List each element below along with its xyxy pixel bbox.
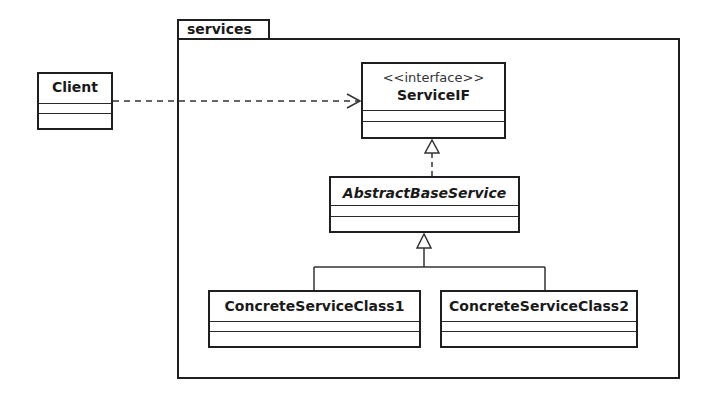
class-name: Client bbox=[39, 79, 111, 95]
class-concrete-service-2[interactable]: ConcreteServiceClass2 bbox=[440, 290, 638, 348]
attributes-divider bbox=[210, 321, 419, 322]
operations-divider bbox=[363, 121, 504, 122]
class-client[interactable]: Client bbox=[37, 72, 113, 130]
hollow-triangle-icon bbox=[417, 234, 431, 248]
class-name: AbstractBaseService bbox=[331, 185, 518, 201]
class-name: ServiceIF bbox=[363, 87, 504, 103]
class-name: ConcreteServiceClass1 bbox=[210, 298, 419, 314]
stereotype-label: <<interface>> bbox=[363, 70, 504, 85]
hollow-triangle-icon bbox=[425, 140, 439, 153]
attributes-divider bbox=[39, 103, 111, 104]
class-abstract-base-service[interactable]: AbstractBaseService bbox=[329, 176, 520, 233]
attributes-divider bbox=[442, 321, 636, 322]
attributes-divider bbox=[331, 205, 518, 206]
operations-divider bbox=[331, 216, 518, 217]
class-service-if[interactable]: <<interface>> ServiceIF bbox=[361, 62, 506, 139]
class-concrete-service-1[interactable]: ConcreteServiceClass1 bbox=[208, 290, 421, 348]
operations-divider bbox=[210, 331, 419, 332]
operations-divider bbox=[39, 113, 111, 114]
attributes-divider bbox=[363, 110, 504, 111]
class-name: ConcreteServiceClass2 bbox=[442, 298, 636, 314]
operations-divider bbox=[442, 331, 636, 332]
